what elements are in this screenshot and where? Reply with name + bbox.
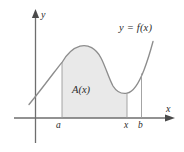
x-tick-label-b: b (138, 121, 143, 131)
x-tick-label-a: a (56, 121, 61, 131)
area-under-curve-figure: y x y = f(x) A(x) a x b (0, 0, 184, 152)
y-axis-label: y (41, 10, 45, 20)
figure-canvas (0, 0, 184, 152)
x-tick-label-x: x (124, 121, 128, 131)
y-axis-arrow-icon (32, 9, 39, 18)
function-label: y = f(x) (119, 23, 152, 34)
x-axis-label: x (166, 104, 170, 114)
area-label: A(x) (72, 85, 90, 96)
shaded-area-region (62, 46, 127, 118)
x-axis-arrow-icon (165, 114, 175, 121)
